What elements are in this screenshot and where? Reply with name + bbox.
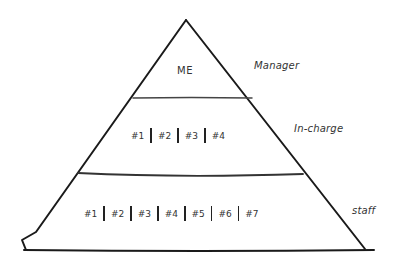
member-cell: #7 [242,209,261,219]
level-top-label: Manager [254,61,299,71]
member-cell: #1 [128,131,147,141]
member-separator [103,206,105,221]
member-separator [204,128,206,143]
member-cell: #6 [215,209,234,219]
member-cell: #2 [155,131,174,141]
member-cell: #3 [135,209,154,219]
divider-middle-bottom [78,173,303,176]
member-separator [130,206,132,221]
divider-top-middle [133,98,252,99]
level-bottom-label: staff [352,206,375,216]
member-cell: #2 [108,209,127,219]
member-cell: #3 [182,131,201,141]
member-cell: #4 [209,131,228,141]
level-middle-label: In-charge [294,124,343,134]
pyramid-base [24,250,374,251]
member-cell: #1 [81,209,100,219]
member-separator [238,206,240,221]
member-separator [150,128,152,143]
level-top-content: ME [177,66,193,76]
member-separator [157,206,159,221]
member-cell: #5 [189,209,208,219]
level-middle-members: #1 #2 #3 #4 [128,128,228,143]
level-bottom-members: #1 #2 #3 #4 #5 #6 #7 [81,206,262,221]
member-separator [184,206,186,221]
member-separator [177,128,179,143]
member-separator [211,206,213,221]
member-cell: #4 [162,209,181,219]
